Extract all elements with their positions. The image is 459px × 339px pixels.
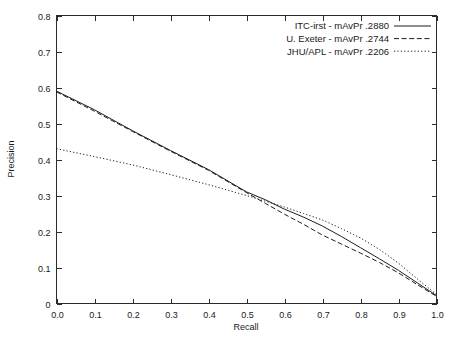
y-tick-label: 0 xyxy=(45,300,50,310)
x-tick-label: 0.1 xyxy=(89,310,102,320)
series-line-u-exeter xyxy=(57,92,437,296)
y-axis-ticks: 00.10.20.30.40.50.60.70.8 xyxy=(38,12,437,310)
y-tick-label: 0.3 xyxy=(38,192,51,202)
data-series-group xyxy=(57,91,437,296)
x-tick-label: 0.5 xyxy=(241,310,254,320)
x-tick-label: 1.0 xyxy=(431,310,444,320)
x-tick-label: 0.9 xyxy=(393,310,406,320)
x-tick-label: 0.7 xyxy=(317,310,330,320)
series-line-jhu-apl xyxy=(57,149,437,295)
legend-label-2: U. Exeter - mAvPr .2744 xyxy=(286,33,389,44)
y-axis-title: Precision xyxy=(6,140,16,177)
legend-label-1: ITC-irst - mAvPr .2880 xyxy=(295,20,389,31)
x-tick-label: 0.8 xyxy=(355,310,368,320)
chart-legend: ITC-irst - mAvPr .2880U. Exeter - mAvPr … xyxy=(286,20,431,56)
legend-label-3: JHU/APL - mAvPr .2206 xyxy=(287,46,389,57)
plot-frame xyxy=(57,16,437,304)
x-tick-label: 0.6 xyxy=(279,310,292,320)
y-tick-label: 0.2 xyxy=(38,228,51,238)
x-axis-ticks: 0.00.10.20.30.40.50.60.70.80.91.0 xyxy=(51,16,444,320)
y-tick-label: 0.8 xyxy=(38,12,51,22)
y-tick-label: 0.7 xyxy=(38,48,51,58)
x-tick-label: 0.3 xyxy=(165,310,178,320)
chart-canvas: 0.00.10.20.30.40.50.60.70.80.91.0 00.10.… xyxy=(0,0,459,339)
y-tick-label: 0.5 xyxy=(38,120,51,130)
y-tick-label: 0.6 xyxy=(38,84,51,94)
y-tick-label: 0.4 xyxy=(38,156,51,166)
precision-recall-chart: 0.00.10.20.30.40.50.60.70.80.91.0 00.10.… xyxy=(0,0,459,339)
x-axis-title: Recall xyxy=(233,322,258,332)
y-tick-label: 0.1 xyxy=(38,264,51,274)
x-tick-label: 0.2 xyxy=(127,310,140,320)
x-tick-label: 0.4 xyxy=(203,310,216,320)
x-tick-label: 0.0 xyxy=(51,310,64,320)
